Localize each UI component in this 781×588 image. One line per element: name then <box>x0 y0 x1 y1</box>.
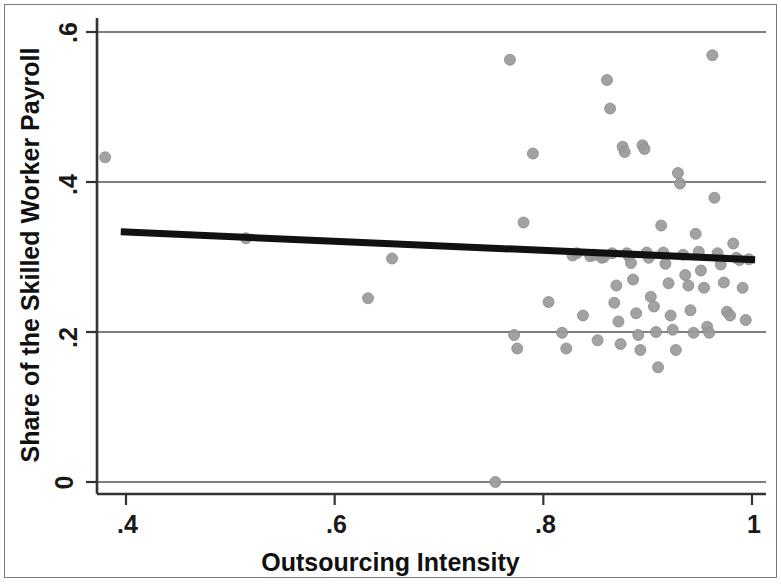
data-point <box>605 103 616 114</box>
data-point <box>645 291 656 302</box>
data-point <box>527 148 538 159</box>
data-point <box>651 327 662 338</box>
data-point <box>561 343 572 354</box>
data-point <box>609 297 620 308</box>
data-point <box>663 278 674 289</box>
data-points-group <box>100 50 755 488</box>
data-point <box>709 192 720 203</box>
data-point <box>490 477 501 488</box>
data-point <box>707 50 718 61</box>
data-point <box>628 274 639 285</box>
data-point <box>690 228 701 239</box>
data-point <box>660 258 671 269</box>
data-point <box>704 327 715 338</box>
scatter-plot-figure: .6 .4 .2 0 .4 .6 .8 1 Outsourcing Intens… <box>0 0 781 588</box>
data-point <box>625 258 636 269</box>
data-point <box>363 293 374 304</box>
data-point <box>672 168 683 179</box>
data-point <box>100 152 111 163</box>
x-axis-title: Outsourcing Intensity <box>0 550 781 575</box>
data-point <box>557 327 568 338</box>
data-point <box>639 144 650 155</box>
data-point <box>512 343 523 354</box>
x-tick-label-0.4: .4 <box>117 512 138 537</box>
data-point <box>688 327 699 338</box>
data-point <box>615 339 626 350</box>
data-point <box>653 362 664 373</box>
data-point <box>665 310 676 321</box>
data-point <box>670 345 681 356</box>
data-point <box>728 238 739 249</box>
data-point <box>635 345 646 356</box>
data-point <box>592 335 603 346</box>
data-point <box>695 265 706 276</box>
data-point <box>737 282 748 293</box>
data-point <box>675 178 686 189</box>
y-axis-title: Share of the Skilled Worker Payroll <box>18 48 43 463</box>
regression-line <box>121 232 755 260</box>
data-point <box>387 253 398 264</box>
data-point <box>680 270 691 281</box>
data-point <box>577 310 588 321</box>
data-point <box>633 330 644 341</box>
data-point <box>611 280 622 291</box>
data-point <box>667 324 678 335</box>
y-axis-title-wrapper: Share of the Skilled Worker Payroll <box>0 0 60 510</box>
data-point <box>613 316 624 327</box>
data-point <box>601 75 612 86</box>
x-tick-label-1: 1 <box>747 512 761 537</box>
data-point <box>631 308 642 319</box>
data-point <box>685 305 696 316</box>
data-point <box>656 220 667 231</box>
x-tick-label-0.8: .8 <box>535 512 556 537</box>
axis-ticks-group <box>86 32 752 505</box>
data-point <box>504 54 515 65</box>
regression-line-group <box>121 232 755 260</box>
x-tick-label-0.6: .6 <box>326 512 347 537</box>
data-point <box>648 301 659 312</box>
data-point <box>619 147 630 158</box>
plot-canvas <box>0 0 781 588</box>
data-point <box>718 277 729 288</box>
data-point <box>740 315 751 326</box>
data-point <box>518 217 529 228</box>
data-point <box>683 280 694 291</box>
data-point <box>699 282 710 293</box>
data-point <box>543 297 554 308</box>
data-point <box>509 330 520 341</box>
data-point <box>725 310 736 321</box>
